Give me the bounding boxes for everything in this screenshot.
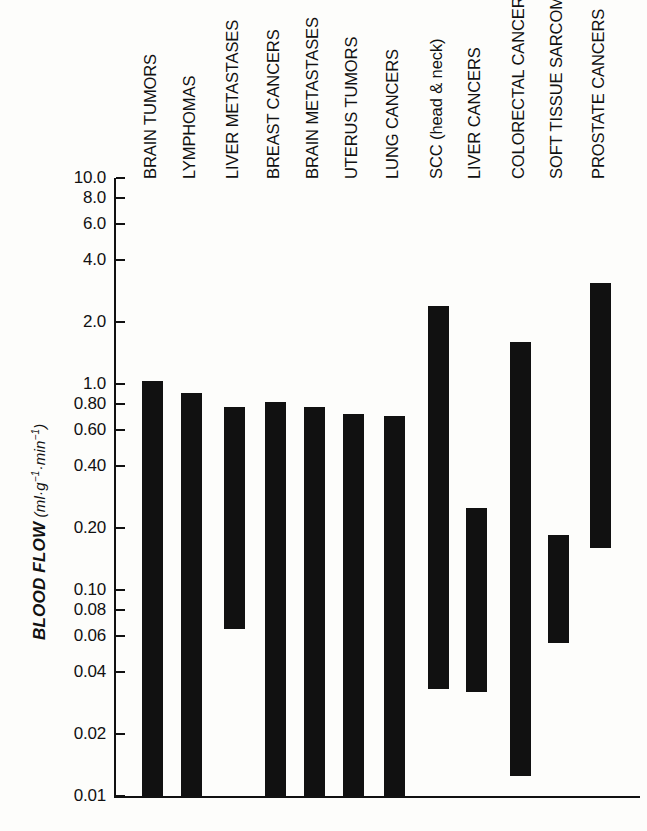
blood-flow-range-chart: BLOOD FLOW (ml·g−1·min−1) 10.08.06.04.02… [0,0,647,831]
y-axis-tick [116,795,125,797]
y-axis-tick [116,465,125,467]
y-axis-tick-label: 0.04 [74,662,106,682]
y-axis-tick-label: 0.80 [74,394,106,414]
y-axis-tick [116,259,125,261]
y-axis-tick-label: 8.0 [83,188,106,208]
y-axis-title-main: BLOOD FLOW [30,522,49,640]
bar [343,414,364,796]
category-label: COLORECTAL CANCERS [509,0,528,179]
category-label: LIVER METASTASES [223,20,242,179]
category-label: LUNG CANCERS [383,49,402,179]
y-axis-tick [116,671,125,673]
bar [466,508,487,692]
bar [428,306,449,690]
category-label: SOFT TISSUE SARCOMAS [547,0,566,179]
y-axis-tick-label: 0.20 [74,518,106,538]
y-axis-tick-label: 0.08 [74,600,106,620]
bar [181,393,202,796]
bar [590,283,611,548]
y-axis-tick-label: 6.0 [83,214,106,234]
y-axis-tick [116,197,125,199]
category-label: BRAIN TUMORS [141,54,160,179]
y-axis-tick [116,383,125,385]
category-label: LYMPHOMAS [180,76,199,179]
bar [510,342,531,776]
y-axis-tick [116,177,125,179]
category-label: BRAIN METASTASES [303,17,322,179]
y-axis-tick [116,609,125,611]
bar [384,416,405,796]
x-axis-line [114,796,640,798]
y-axis-tick [116,223,125,225]
y-axis-tick-label: 0.02 [74,724,106,744]
y-axis-tick-label: 4.0 [83,250,106,270]
y-axis-tick-label: 0.10 [74,580,106,600]
y-axis-tick-label: 10.0 [74,168,106,188]
y-axis-tick [116,321,125,323]
y-axis-title: BLOOD FLOW (ml·g−1·min−1) [30,423,50,640]
category-label: LIVER CANCERS [465,47,484,179]
bar [224,407,245,628]
y-axis-tick-label: 0.60 [74,420,106,440]
y-axis-tick-label: 0.06 [74,626,106,646]
y-axis-tick-label: 0.01 [74,786,106,806]
category-label: PROSTATE CANCERS [589,9,608,179]
bar [265,402,286,796]
category-label: UTERUS TUMORS [342,37,361,179]
y-axis-tick [116,589,125,591]
y-axis-tick [116,733,125,735]
y-axis-tick-label: 0.40 [74,456,106,476]
y-axis-title-units: (ml·g−1·min−1) [31,423,48,521]
y-axis-line [114,178,116,796]
y-axis-tick-label: 1.0 [83,374,106,394]
category-label: SCC (head & neck) [427,39,446,179]
y-axis-tick [116,527,125,529]
y-axis-tick [116,403,125,405]
y-axis-tick [116,429,125,431]
category-label: BREAST CANCERS [264,29,283,179]
y-axis-tick-label: 2.0 [83,312,106,332]
bar [142,381,163,796]
bar [304,407,325,796]
y-axis-tick [116,635,125,637]
bar [548,535,569,644]
